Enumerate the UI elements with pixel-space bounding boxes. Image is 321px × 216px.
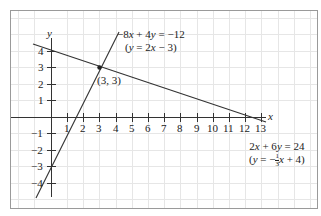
x-tick-label: 5 (129, 123, 135, 134)
x-tick-label: 2 (80, 123, 86, 134)
x-tick-label: 8 (177, 123, 183, 134)
line1-equation: −8x + 4y = −12 (y = 2x − 3) (117, 28, 185, 54)
x-tick-label: 10 (207, 123, 218, 134)
y-axis-label: y (47, 28, 52, 39)
line2-equation: 2x + 6y = 24 (y = −13x + 4) (249, 140, 305, 168)
y-tick-label: 4 (38, 46, 44, 57)
y-tick-label: 2 (38, 79, 44, 90)
x-tick-label: 13 (255, 123, 266, 134)
y-tick-label: −4 (31, 178, 43, 189)
y-tick-label: 1 (38, 95, 44, 106)
x-tick-label: 6 (145, 123, 151, 134)
x-tick-label: 4 (113, 123, 119, 134)
line2-slope-form: (y = −13x + 4) (249, 153, 305, 168)
y-tick-label: −1 (31, 128, 43, 139)
x-tick-label: 7 (161, 123, 167, 134)
y-tick-label: −3 (31, 161, 43, 172)
intersection-label: (3, 3) (97, 75, 121, 86)
x-tick-label: 11 (223, 123, 234, 134)
x-tick-label: 9 (194, 123, 200, 134)
y-tick-label: −2 (31, 145, 43, 156)
line1-standard-form: −8x + 4y = −12 (117, 28, 185, 41)
y-tick-label: 3 (38, 62, 44, 73)
x-tick-label: 3 (96, 123, 102, 134)
line1-slope-form: (y = 2x − 3) (117, 41, 185, 54)
x-tick-label: 12 (239, 123, 250, 134)
x-axis-label: x (268, 111, 273, 122)
intersection-point (97, 65, 101, 69)
x-tick-label: 1 (64, 123, 70, 134)
